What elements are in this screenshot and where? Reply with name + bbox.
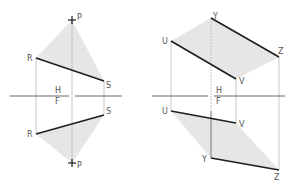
label-r-front: R xyxy=(27,130,33,139)
label-p-front: P xyxy=(77,161,82,170)
label-y-top: Y xyxy=(212,12,218,21)
descriptive-geometry-figure: P R S H F S R P Y U Z V H F U V Y xyxy=(0,0,292,184)
label-y-front: Y xyxy=(201,155,207,164)
label-z-front: Z xyxy=(274,173,280,182)
fold-label-h-left: H xyxy=(55,86,61,95)
label-z-top: Z xyxy=(278,47,284,56)
fold-label-f-right: F xyxy=(216,97,221,106)
label-v-top: V xyxy=(239,77,245,86)
left-diagram: P R S H F S R P xyxy=(10,13,122,170)
front-view-plane-prs xyxy=(36,115,104,163)
label-s-front: S xyxy=(106,107,111,116)
label-p-top: P xyxy=(77,13,82,22)
label-u-top: U xyxy=(162,37,168,46)
fold-label-h-right: H xyxy=(216,86,222,95)
top-view-plane-prs xyxy=(36,20,104,81)
fold-label-f-left: F xyxy=(55,97,60,106)
label-s-top: S xyxy=(106,81,111,90)
label-v-front: V xyxy=(239,120,245,129)
label-u-front: U xyxy=(162,107,168,116)
label-r-top: R xyxy=(27,54,33,63)
right-diagram: Y U Z V H F U V Y Z xyxy=(152,12,285,182)
